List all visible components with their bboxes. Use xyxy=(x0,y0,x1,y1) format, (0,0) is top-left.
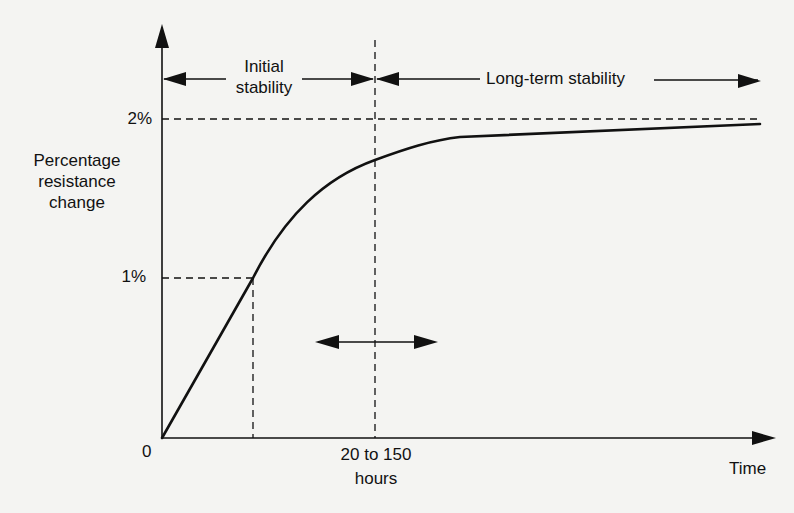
y-axis-arrow-icon xyxy=(155,24,169,48)
y-axis-label-line1: Percentage xyxy=(22,150,132,171)
x-axis-label: Time xyxy=(729,458,766,479)
initial-stability-line2: stability xyxy=(218,77,310,98)
y-axis-label-line2: resistance xyxy=(22,171,132,192)
y-axis-label: Percentage resistance change xyxy=(22,150,132,213)
resistance-curve xyxy=(162,124,760,438)
x-axis-arrow-icon xyxy=(752,431,776,445)
transition-time-label: 20 to 150 hours xyxy=(316,444,436,489)
transition-time-line2: hours xyxy=(316,468,436,489)
y-axis-label-line3: change xyxy=(22,192,132,213)
origin-label: 0 xyxy=(142,441,151,462)
initial-stability-label: Initial stability xyxy=(218,56,310,98)
reference-lines xyxy=(162,40,762,438)
tick-2pct: 2% xyxy=(110,108,152,129)
long-term-stability-label: Long-term stability xyxy=(486,68,625,89)
arrow-right-icon xyxy=(351,72,374,86)
arrow-right-icon xyxy=(414,335,438,349)
transition-time-line1: 20 to 150 xyxy=(316,444,436,465)
arrow-left-icon xyxy=(376,72,399,86)
resistance-stability-diagram xyxy=(0,0,794,513)
y-axis xyxy=(155,24,169,438)
initial-stability-line1: Initial xyxy=(218,56,310,77)
transition-range-arrow xyxy=(315,335,438,349)
tick-1pct: 1% xyxy=(106,266,146,287)
arrow-left-icon xyxy=(163,72,186,86)
x-axis xyxy=(162,431,776,445)
arrow-right-icon xyxy=(738,74,761,88)
arrow-left-icon xyxy=(315,335,339,349)
